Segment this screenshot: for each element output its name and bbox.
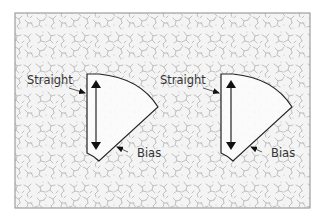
fabric-grain-diagram: Straight Bias Straight Bias: [0, 0, 328, 221]
bias-label: Bias: [271, 146, 295, 160]
straight-label: Straight: [160, 73, 206, 87]
bias-label: Bias: [137, 146, 161, 160]
straight-label: Straight: [27, 73, 73, 87]
